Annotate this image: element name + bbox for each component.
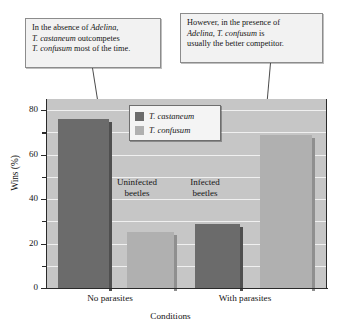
y-axis-tick bbox=[41, 199, 46, 200]
y-axis-tick bbox=[41, 288, 46, 289]
bar-face bbox=[195, 224, 240, 288]
y-axis-line bbox=[46, 99, 47, 289]
bar-with-parasites-t-confusum bbox=[260, 135, 312, 288]
y-tick-label: 20 bbox=[14, 238, 38, 248]
legend-swatch-castaneum bbox=[135, 112, 144, 121]
callout-text-segment: However, in the presence of bbox=[187, 18, 280, 27]
callout-box-left: In the absence of Adelina, T. castaneum … bbox=[25, 18, 161, 68]
y-axis-tick bbox=[41, 110, 46, 111]
bar-side-edge bbox=[174, 235, 177, 291]
bar-no-parasites-t-castaneum bbox=[58, 119, 109, 288]
bar-side-edge bbox=[240, 227, 243, 291]
legend-label-castaneum: T. castaneum bbox=[149, 111, 194, 121]
callout-text-segment: T. castaneum bbox=[32, 34, 76, 43]
y-axis-minor-tick bbox=[42, 266, 46, 267]
annotation-infected-line-1: Infected bbox=[190, 177, 219, 187]
y-axis-minor-tick bbox=[42, 177, 46, 178]
annotation-uninfected-beetles: Uninfected beetles bbox=[102, 177, 172, 199]
y-axis-minor-tick bbox=[42, 221, 46, 222]
legend-swatch-confusum bbox=[135, 126, 144, 135]
bar-side-edge bbox=[312, 138, 315, 291]
callout-text-segment: usually the better competitor. bbox=[187, 39, 284, 48]
legend-label-confusum: T. confusum bbox=[149, 125, 190, 135]
callout-right-line-2: Adelina, T. confusum is bbox=[187, 29, 317, 40]
y-axis-minor-tick bbox=[42, 132, 46, 133]
y-axis-tick bbox=[41, 244, 46, 245]
y-axis-tick bbox=[41, 155, 46, 156]
callout-left-line-1: In the absence of Adelina, bbox=[32, 23, 155, 34]
y-axis-title: Wins (%) bbox=[10, 138, 20, 208]
bar-face bbox=[260, 135, 312, 288]
legend-item-confusum: T. confusum bbox=[135, 124, 215, 136]
callout-right-line-3: usually the better competitor. bbox=[187, 39, 317, 50]
x-tick-label-with-parasites: With parasites bbox=[190, 293, 300, 303]
callout-text-segment: T. confusum bbox=[32, 44, 72, 53]
chart-legend: T. castaneum T. confusum bbox=[129, 105, 221, 141]
annotation-infected-line-2: beetles bbox=[193, 188, 218, 198]
callout-text-segment: most of the time. bbox=[72, 44, 130, 53]
x-axis-line bbox=[46, 288, 328, 289]
bar-no-parasites-t-confusum bbox=[127, 232, 174, 288]
bar-face bbox=[127, 232, 174, 288]
callout-text-segment: In the absence of bbox=[32, 23, 91, 32]
x-tick-label-no-parasites: No parasites bbox=[55, 293, 165, 303]
annotation-uninfected-line-1: Uninfected bbox=[117, 177, 157, 187]
callout-text-segment: is bbox=[257, 29, 265, 38]
callout-left-line-3: T. confusum most of the time. bbox=[32, 44, 155, 55]
bar-side-edge bbox=[109, 122, 112, 291]
x-axis-title: Conditions bbox=[0, 311, 341, 321]
bar-with-parasites-t-castaneum bbox=[195, 224, 240, 288]
plot-area: Uninfected beetles Infected beetles T. c… bbox=[47, 99, 327, 288]
legend-item-castaneum: T. castaneum bbox=[135, 110, 215, 122]
y-tick-label: 80 bbox=[14, 104, 38, 114]
callout-right-line-1: However, in the presence of bbox=[187, 18, 317, 29]
y-tick-label: 0 bbox=[14, 282, 38, 292]
callout-text-segment: Adelina, T. confusum bbox=[187, 29, 257, 38]
callout-text-segment: Adelina, bbox=[91, 23, 119, 32]
callout-box-right: However, in the presence of Adelina, T. … bbox=[180, 13, 323, 63]
callout-text-segment: outcompetes bbox=[76, 34, 120, 43]
annotation-uninfected-line-2: beetles bbox=[125, 188, 150, 198]
annotation-infected-beetles: Infected beetles bbox=[174, 177, 236, 199]
callout-left-line-2: T. castaneum outcompetes bbox=[32, 34, 155, 45]
bar-face bbox=[58, 119, 109, 288]
